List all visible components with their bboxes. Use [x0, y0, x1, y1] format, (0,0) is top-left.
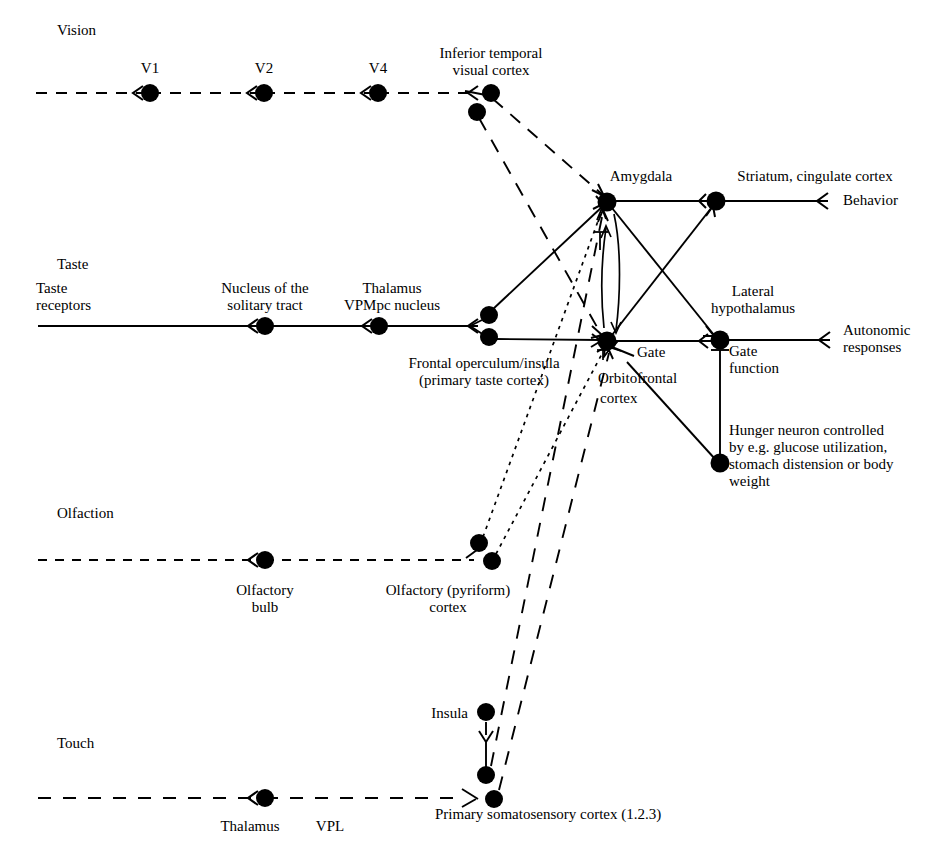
- node-striatum-cingulate-cortex: [707, 192, 726, 211]
- it-to-amygdala: [493, 99, 604, 196]
- modality-label-vision: Vision: [57, 22, 96, 38]
- label-frontal-operculum-line2: (primary taste cortex): [419, 372, 549, 388]
- node-frontal-operculum-lower: [480, 328, 498, 346]
- modality-label-touch: Touch: [57, 735, 94, 751]
- label-autonomic-line2: responses: [843, 339, 901, 355]
- node-orbitofrontal-cortex: [598, 332, 617, 351]
- node-v4: [369, 84, 387, 102]
- node-frontal-operculum-upper: [480, 306, 498, 324]
- label-behavior: Behavior: [843, 192, 898, 208]
- label-orbitofrontal-line1: Orbitofrontal: [598, 370, 677, 386]
- label-frontal-operculum-line1: Frontal operculum/insula: [408, 355, 559, 371]
- node-v1: [141, 84, 159, 102]
- label-lateral-hypothalamus-line2: hypothalamus: [711, 300, 795, 316]
- label-hunger-line2: by e.g. glucose utilization,: [729, 439, 887, 455]
- label-gate-function-line2: function: [729, 360, 779, 376]
- label-orbitofrontal-line2: cortex: [600, 390, 637, 406]
- node-pyriform-cortex-upper: [470, 534, 488, 552]
- node-lateral-hypothalamus: [711, 331, 730, 350]
- modality-label-olfaction: Olfaction: [57, 505, 114, 521]
- label-insula: Insula: [431, 705, 468, 721]
- label-taste-receptors-line2: receptors: [36, 297, 91, 313]
- label-striatum-cingulate-cortex: Striatum, cingulate cortex: [737, 168, 892, 184]
- label-thalamus-vpl-a: Thalamus: [220, 818, 279, 834]
- label-olfactory-bulb-line1: Olfactory: [236, 582, 293, 598]
- label-gate: Gate: [637, 344, 665, 360]
- label-taste-receptors-line1: Taste: [36, 280, 67, 296]
- label-amygdala: Amygdala: [610, 168, 672, 184]
- node-thalamus-vpmpc: [370, 317, 388, 335]
- label-nst-line2: solitary tract: [227, 297, 302, 313]
- label-autonomic-line1: Autonomic: [843, 322, 911, 338]
- label-lateral-hypothalamus-line1: Lateral: [732, 283, 774, 299]
- diagram-nodes: [141, 84, 730, 808]
- label-inferior-temporal-line1: Inferior temporal: [440, 45, 543, 61]
- label-olfactory-bulb-line2: bulb: [252, 599, 279, 615]
- label-thalamus-vpmpc-line1: Thalamus: [362, 280, 421, 296]
- node-pyriform-cortex-lower: [483, 552, 501, 570]
- node-primary-somatosensory-upper: [477, 766, 495, 784]
- node-nucleus-solitary-tract: [256, 317, 274, 335]
- label-inferior-temporal-line2: visual cortex: [452, 62, 529, 78]
- label-pyriform-line2: cortex: [429, 599, 466, 615]
- label-v1: V1: [141, 60, 159, 76]
- hunger-gate-function-line: [711, 350, 729, 458]
- node-insula: [477, 703, 495, 721]
- label-v4: V4: [369, 60, 387, 76]
- label-thalamus-vpl-b: VPL: [316, 818, 344, 834]
- node-inferior-temporal-visual-cortex-lower: [468, 103, 486, 121]
- s1-to-orbitofrontal: [499, 353, 609, 790]
- node-thalamus-vpl: [256, 789, 274, 807]
- pathway-diagram-figure: Vision V1 V2 V4 Inferior temporal visual…: [0, 0, 934, 850]
- label-gate-function-line1: Gate: [729, 343, 757, 359]
- node-olfactory-bulb: [256, 551, 274, 569]
- node-hunger-neuron: [711, 454, 730, 473]
- node-inferior-temporal-visual-cortex-upper: [482, 84, 500, 102]
- label-thalamus-vpmpc-line2: VPMpc nucleus: [344, 297, 440, 313]
- s1-connector-upper: [462, 789, 478, 799]
- label-hunger-line3: stomach distension or body: [729, 456, 894, 472]
- label-nst-line1: Nucleus of the: [221, 280, 308, 296]
- label-hunger-line1: Hunger neuron controlled: [729, 422, 884, 438]
- fop-to-orbitofrontal: [496, 339, 600, 340]
- label-primary-somatosensory-cortex: Primary somatosensory cortex (1.2.3): [435, 806, 661, 822]
- label-hunger-line4: weight: [729, 473, 770, 489]
- label-v2: V2: [255, 60, 273, 76]
- node-amygdala: [598, 193, 617, 212]
- node-v2: [255, 84, 273, 102]
- modality-label-taste: Taste: [57, 256, 88, 272]
- label-pyriform-line1: Olfactory (pyriform): [386, 582, 511, 598]
